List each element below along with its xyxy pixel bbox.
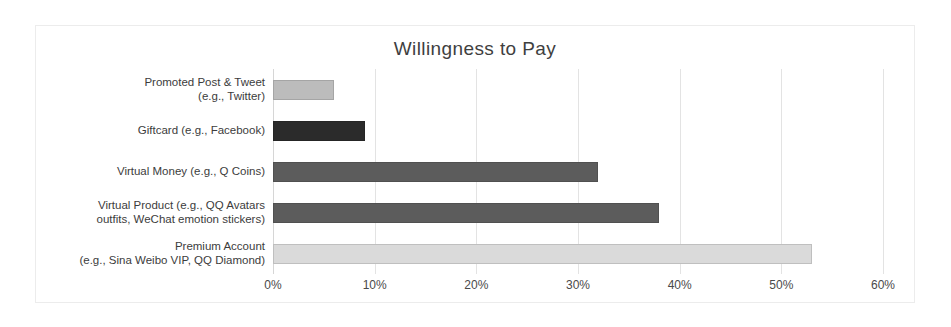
category-label: Virtual Money (e.g., Q Coins) [30,165,265,179]
bar [273,162,598,182]
bar [273,80,334,100]
x-tick-label: 30% [566,278,590,292]
bar [273,203,659,223]
category-label: Giftcard (e.g., Facebook) [30,124,265,138]
plot-area: Promoted Post & Tweet (e.g., Twitter)Gif… [273,69,883,274]
bar-row: Premium Account (e.g., Sina Weibo VIP, Q… [273,233,883,274]
category-label: Premium Account (e.g., Sina Weibo VIP, Q… [30,240,265,267]
bar-row: Virtual Money (e.g., Q Coins) [273,151,883,192]
bar [273,121,365,141]
x-axis-tick-labels: 0%10%20%30%40%50%60% [273,278,883,298]
chart-title: Willingness to Pay [36,38,914,60]
bar-row: Giftcard (e.g., Facebook) [273,110,883,151]
x-tick-label: 10% [363,278,387,292]
bar-row: Promoted Post & Tweet (e.g., Twitter) [273,69,883,110]
x-tick-label: 20% [464,278,488,292]
x-tick-label: 60% [871,278,895,292]
x-tick-label: 40% [668,278,692,292]
bar-row: Virtual Product (e.g., QQ Avatars outfit… [273,192,883,233]
gridline-60 [883,69,884,274]
bar [273,244,812,264]
category-label: Promoted Post & Tweet (e.g., Twitter) [30,76,265,103]
category-label: Virtual Product (e.g., QQ Avatars outfit… [30,199,265,226]
x-tick-label: 50% [769,278,793,292]
x-tick-label: 0% [264,278,281,292]
chart-frame: Willingness to Pay Promoted Post & Tweet… [35,25,915,303]
